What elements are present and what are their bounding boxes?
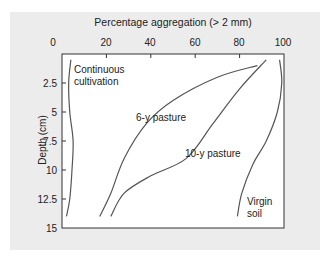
x-tick-100: 100 bbox=[275, 37, 292, 48]
label-6y-pasture: 6-y pasture bbox=[136, 112, 186, 124]
x-tick-80: 80 bbox=[233, 37, 244, 48]
x-tick-40: 40 bbox=[144, 37, 155, 48]
x-tick-20: 20 bbox=[100, 37, 111, 48]
y-tick-12.5: 12.5 bbox=[27, 194, 57, 205]
label-virgin-soil: Virgin soil bbox=[247, 196, 272, 220]
y-tick-10: 10 bbox=[27, 165, 57, 176]
label-continuous-cultivation: Continuous cultivation bbox=[74, 64, 125, 88]
y-tick-2.5: 2.5 bbox=[27, 78, 57, 89]
label-line: Virgin bbox=[247, 196, 272, 208]
y-axis-title: Depth (cm) bbox=[37, 115, 48, 164]
x-tick-60: 60 bbox=[189, 37, 200, 48]
label-line: cultivation bbox=[74, 76, 125, 88]
label-line: Continuous bbox=[74, 64, 125, 76]
x-axis-title: Percentage aggregation (> 2 mm) bbox=[62, 16, 284, 28]
label-line: soil bbox=[247, 208, 272, 220]
y-tick-15: 15 bbox=[27, 223, 57, 234]
label-10y-pasture: 10-y pasture bbox=[185, 148, 241, 160]
x-tick-0: 0 bbox=[50, 37, 56, 48]
